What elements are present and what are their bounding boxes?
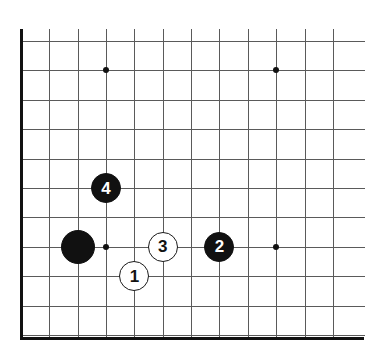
black-stone-4[interactable]: 4 [91, 173, 121, 203]
board-stones: 4132 [0, 0, 370, 357]
go-board-diagram: 4132 [0, 0, 370, 357]
black-stone-unnumbered[interactable] [61, 230, 95, 264]
stone-move-number: 2 [215, 238, 224, 255]
white-stone-1[interactable]: 1 [119, 261, 149, 291]
stone-move-number: 4 [101, 180, 110, 197]
white-stone-3[interactable]: 3 [148, 232, 178, 262]
stone-move-number: 1 [130, 268, 139, 285]
black-stone-2[interactable]: 2 [204, 232, 234, 262]
stone-move-number: 3 [158, 238, 167, 255]
